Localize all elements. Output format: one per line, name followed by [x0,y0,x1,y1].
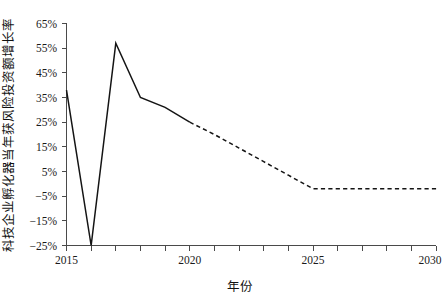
y-tick-label: 65% [36,18,58,30]
y-tick-label: −25% [29,240,57,252]
y-tick-label: −15% [29,215,57,227]
x-axis-title: 年份 [227,280,253,294]
x-tick-label: 2030 [419,254,442,266]
x-axis-ticks [67,246,437,251]
series-actual-line [67,43,190,245]
y-tick-label: 25% [36,116,58,128]
line-chart: 65% 55% 45% 35% 25% 15% 5% −5% −15% −25% [0,0,442,300]
x-tick-label: 2015 [55,254,78,266]
x-tick-label: 2020 [178,254,201,266]
y-tick-label: 55% [36,42,58,54]
y-tick-label: 35% [36,92,58,104]
series-forecast-line [190,122,437,189]
y-tick-label: 5% [42,166,58,178]
y-tick-label: −5% [35,190,57,202]
chart-container: 65% 55% 45% 35% 25% 15% 5% −5% −15% −25% [0,0,442,300]
y-axis-title: 科技企业孵化器当年获风险投资额增长率 [1,18,16,252]
y-axis-tick-labels: 65% 55% 45% 35% 25% 15% 5% −5% −15% −25% [29,18,57,252]
y-axis-ticks [62,24,67,246]
y-tick-label: 15% [36,141,58,153]
x-tick-label: 2025 [302,254,325,266]
y-tick-label: 45% [36,67,58,79]
x-axis-tick-labels: 2015 2020 2025 2030 [55,254,442,266]
